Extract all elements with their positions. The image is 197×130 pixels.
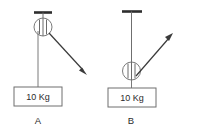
mass-label-b: 10 Kg	[120, 93, 144, 103]
panel-letter-b: B	[128, 115, 134, 126]
force-arrow-line-a	[49, 33, 83, 70]
force-arrow-head-a	[79, 68, 87, 76]
panel-a: 10 Kg A	[14, 13, 87, 127]
physics-pulley-figure: 10 Kg A 10 Kg B	[0, 0, 197, 130]
panel-b: 10 Kg B	[108, 12, 173, 127]
panel-letter-a: A	[35, 115, 42, 126]
force-arrow-head-b	[165, 33, 173, 41]
force-arrow-line-b	[136, 38, 169, 76]
diagram-canvas: 10 Kg A 10 Kg B	[0, 0, 197, 130]
mass-label-a: 10 Kg	[26, 92, 50, 102]
